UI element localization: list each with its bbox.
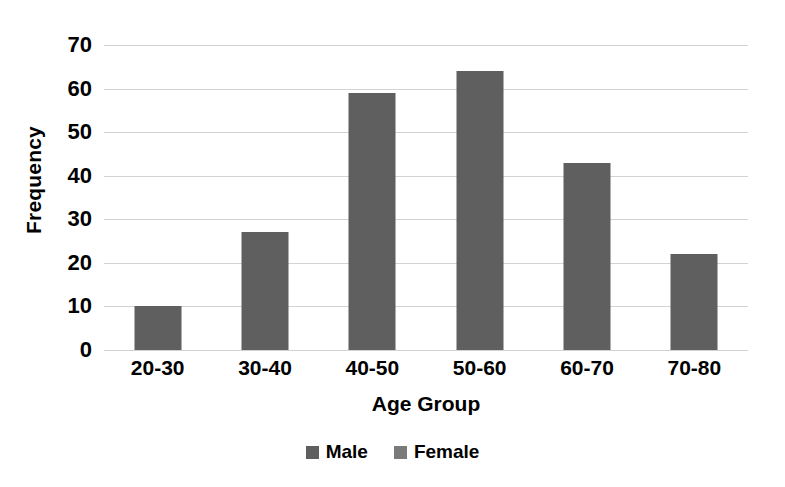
bar[interactable] [671, 254, 718, 350]
bar-slot [426, 45, 533, 350]
y-axis-tick-label: 60 [68, 78, 92, 100]
x-axis-tick-label: 20-30 [131, 356, 185, 380]
y-axis-title: Frequency [14, 0, 54, 360]
bar-slot [319, 45, 426, 350]
x-axis-tick-label: 30-40 [238, 356, 292, 380]
bar[interactable] [241, 232, 288, 350]
y-axis-tick-label: 40 [68, 165, 92, 187]
bars [104, 45, 748, 350]
x-axis-tick-label: 40-50 [345, 356, 399, 380]
bar-slot [641, 45, 748, 350]
legend-swatch-icon [394, 446, 407, 459]
x-axis-tick-label: 70-80 [667, 356, 721, 380]
legend-label: Male [326, 441, 368, 463]
gridline [104, 350, 748, 351]
bar[interactable] [349, 93, 396, 350]
legend-swatch-icon [306, 446, 319, 459]
y-axis-tick-label: 10 [68, 295, 92, 317]
bar-slot [104, 45, 211, 350]
y-axis-tick-label: 50 [68, 121, 92, 143]
plot-area: 010203040506070 [104, 45, 748, 350]
bar-slot [211, 45, 318, 350]
bar[interactable] [563, 163, 610, 350]
x-axis-title: Age Group [104, 392, 748, 416]
legend-item[interactable]: Male [306, 441, 368, 463]
y-axis-tick-label: 20 [68, 252, 92, 274]
legend-label: Female [414, 441, 479, 463]
legend-item[interactable]: Female [394, 441, 479, 463]
x-axis-tick-label: 50-60 [453, 356, 507, 380]
y-axis-title-text: Frequency [22, 126, 46, 234]
bar[interactable] [134, 306, 181, 350]
y-axis-tick-label: 70 [68, 34, 92, 56]
y-axis-tick-label: 30 [68, 208, 92, 230]
bar-slot [533, 45, 640, 350]
x-axis-tick-label: 60-70 [560, 356, 614, 380]
y-axis-tick-label: 0 [80, 339, 92, 361]
bar[interactable] [456, 71, 503, 350]
chart-legend: MaleFemale [0, 441, 785, 463]
x-axis-tick-labels: 20-3030-4040-5050-6060-7070-80 [104, 356, 748, 386]
bar-chart: Frequency 010203040506070 20-3030-4040-5… [0, 0, 785, 487]
